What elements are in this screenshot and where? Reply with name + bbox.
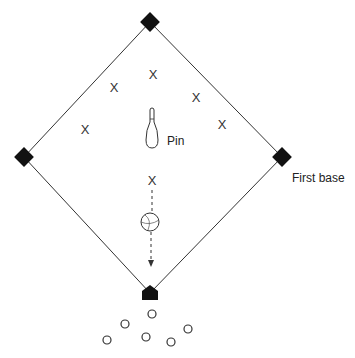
kicker-marker [184, 325, 192, 333]
fielder-marker: X [81, 122, 90, 137]
kickers [103, 310, 192, 346]
kickball-field-diagram: First base X X X X X X Pin [0, 0, 355, 358]
pin-label: Pin [167, 134, 184, 148]
fielder-marker: X [192, 90, 201, 105]
field-diamond [24, 22, 282, 293]
pitcher-marker: X [148, 173, 157, 188]
kicker-marker [142, 333, 150, 341]
bowling-pin-icon [146, 108, 158, 148]
kicker-marker [148, 310, 156, 318]
kicker-marker [103, 336, 111, 344]
arrow-head-icon [148, 260, 154, 267]
fielder-marker: X [218, 117, 227, 132]
fielder-marker: X [149, 67, 158, 82]
kicker-marker [121, 320, 129, 328]
kicker-marker [167, 338, 175, 346]
ball-icon [141, 213, 159, 231]
first-base-label: First base [292, 171, 345, 185]
fielder-marker: X [110, 80, 119, 95]
